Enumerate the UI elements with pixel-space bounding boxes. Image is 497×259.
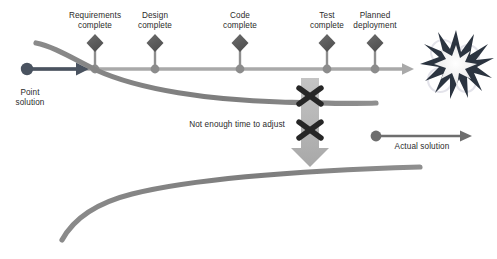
actual-progress-curve-upper xyxy=(36,43,376,103)
actual-solution-label: Actual solution xyxy=(377,142,467,152)
not-enough-time-label: Not enough time to adjust xyxy=(155,120,285,130)
milestone-label-planned-deployment: Planned deployment xyxy=(333,11,417,31)
point-solution-arrow xyxy=(21,63,89,76)
actual-progress-curve-lower xyxy=(62,167,420,240)
diagram-canvas: Requirements complete Design complete Co… xyxy=(0,0,497,259)
milestone-label-code-complete: Code complete xyxy=(198,11,282,31)
actual-solution-arrow xyxy=(371,130,472,141)
point-solution-label: Point solution xyxy=(0,88,60,108)
milestone-label-design-complete: Design complete xyxy=(113,11,197,31)
